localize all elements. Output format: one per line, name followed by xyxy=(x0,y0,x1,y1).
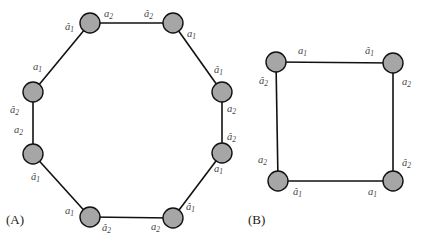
panel-label-b: (B) xyxy=(248,212,265,227)
octagon-port-label: â1 xyxy=(186,201,195,214)
square-edge xyxy=(276,62,278,181)
octagon-port-label: a1 xyxy=(65,205,74,218)
octagon-node xyxy=(80,13,100,33)
octagon-nodes xyxy=(23,13,232,228)
octagon-node xyxy=(23,82,43,102)
square-port-label: â1 xyxy=(365,45,374,58)
octagon-edge xyxy=(33,23,90,92)
square-node xyxy=(266,52,286,72)
octagon-port-label: â2 xyxy=(10,104,19,117)
octagon-edge xyxy=(33,154,90,217)
octagon-port-label: â1 xyxy=(31,171,40,184)
octagon-edge xyxy=(173,23,222,92)
square-nodes xyxy=(266,52,403,191)
square-port-label: a1 xyxy=(368,186,377,199)
octagon-port-label: â2 xyxy=(102,222,111,235)
octagon-node xyxy=(212,82,232,102)
octagon-node xyxy=(163,13,183,33)
octagon-port-label: â2 xyxy=(227,131,236,144)
octagon-port-label: a1 xyxy=(214,163,223,176)
octagon-port-label: a1 xyxy=(33,61,42,74)
octagon-port-label: a1 xyxy=(187,28,196,41)
octagon-node xyxy=(163,208,183,228)
square-port-label: a1 xyxy=(298,45,307,58)
octagon-port-label: a2 xyxy=(151,221,160,234)
square-port-label: â1 xyxy=(293,186,302,199)
square-node xyxy=(268,171,288,191)
octagon-node xyxy=(23,144,43,164)
panel-label-a: (A) xyxy=(6,212,24,227)
graph-diagram: â1a2â2a1â1a2â2a1â1a2â2a1â1a2â2a1 a1â1a2â… xyxy=(0,0,425,244)
octagon-port-label: a2 xyxy=(104,8,113,21)
octagon-labels: â1a2â2a1â1a2â2a1â1a2â2a1â1a2â2a1 xyxy=(10,8,236,235)
square-edge xyxy=(276,62,393,63)
square-edges xyxy=(276,62,393,181)
octagon-edges xyxy=(33,23,222,218)
octagon-port-label: â1 xyxy=(214,64,223,77)
octagon-port-label: â1 xyxy=(65,21,74,34)
octagon-node xyxy=(212,143,232,163)
square-port-label: a2 xyxy=(258,154,267,167)
square-node xyxy=(383,171,403,191)
square-port-label: â2 xyxy=(402,157,411,170)
square-port-label: a2 xyxy=(402,76,411,89)
octagon-port-label: â2 xyxy=(144,8,153,21)
octagon-node xyxy=(80,207,100,227)
square-port-label: â2 xyxy=(259,75,268,88)
octagon-edge xyxy=(90,217,173,218)
octagon-port-label: a2 xyxy=(14,124,23,137)
octagon-port-label: a2 xyxy=(227,103,236,116)
square-node xyxy=(383,53,403,73)
